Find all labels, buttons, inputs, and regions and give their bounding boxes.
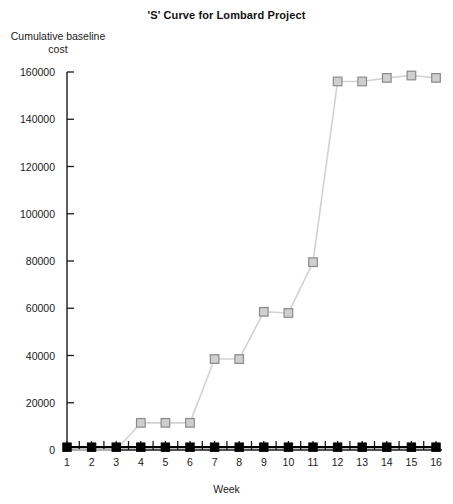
- plot-area: 0200004000060000800001000001200001400001…: [0, 0, 453, 504]
- x-tick-label: 13: [356, 456, 368, 468]
- x-tick-label: 7: [212, 456, 218, 468]
- y-tick-label: 120000: [0, 161, 55, 173]
- x-tick-label: 16: [430, 456, 442, 468]
- y-axis-ticks: [67, 72, 74, 450]
- series-markers-cumulative-cost: [137, 71, 441, 427]
- y-tick-label: 20000: [0, 397, 55, 409]
- x-tick-label: 6: [187, 456, 193, 468]
- x-tick-label: 12: [332, 456, 344, 468]
- x-axis-title: Week: [0, 483, 453, 495]
- plot-svg: [0, 0, 453, 504]
- x-tick-label: 14: [381, 456, 393, 468]
- x-tick-label: 9: [261, 456, 267, 468]
- y-tick-label: 80000: [0, 255, 55, 267]
- y-tick-label: 0: [0, 444, 55, 456]
- x-tick-label: 8: [236, 456, 242, 468]
- x-tick-label: 11: [308, 456, 319, 468]
- y-tick-label: 40000: [0, 350, 55, 362]
- x-tick-label: 10: [283, 456, 295, 468]
- y-tick-label: 100000: [0, 208, 55, 220]
- axis-lines: [67, 72, 442, 450]
- y-tick-label: 140000: [0, 113, 55, 125]
- x-tick-label: 1: [64, 456, 70, 468]
- series-line-cumulative-cost: [67, 76, 436, 450]
- x-tick-label: 15: [406, 456, 418, 468]
- x-tick-label: 4: [138, 456, 144, 468]
- y-tick-label: 160000: [0, 66, 55, 78]
- x-tick-label: 5: [162, 456, 168, 468]
- x-tick-label: 2: [89, 456, 95, 468]
- chart-container: 'S' Curve for Lombard Project Cumulative…: [0, 0, 453, 504]
- y-tick-label: 60000: [0, 302, 55, 314]
- x-tick-label: 3: [113, 456, 119, 468]
